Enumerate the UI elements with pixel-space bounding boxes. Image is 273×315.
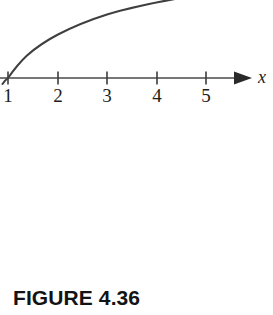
- tick-label-3: 3: [97, 86, 117, 105]
- plot-svg: [0, 0, 273, 120]
- tick-label-5: 5: [196, 86, 216, 105]
- logarithmic-curve: [3, 0, 205, 84]
- plot-area: 1 2 3 4 5 x: [0, 0, 273, 120]
- tick-label-4: 4: [147, 86, 167, 105]
- x-axis-variable-label: x: [258, 68, 266, 86]
- figure-container: 1 2 3 4 5 x FIGURE 4.36: [0, 0, 273, 315]
- x-axis-arrowhead: [234, 72, 252, 85]
- tick-label-2: 2: [48, 86, 68, 105]
- tick-label-1: 1: [0, 86, 18, 105]
- figure-caption: FIGURE 4.36: [13, 286, 140, 310]
